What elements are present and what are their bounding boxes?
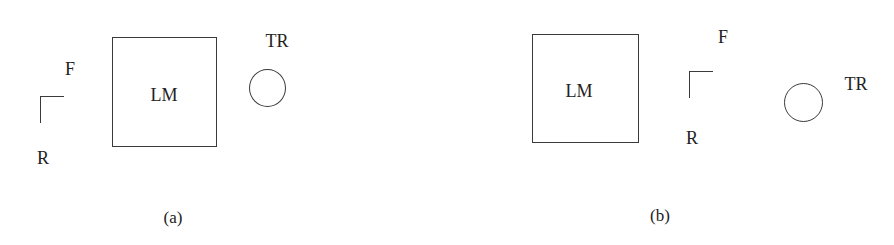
landmark-label: LM: [566, 82, 593, 100]
forward-label: F: [718, 28, 728, 46]
panel-caption: (a): [164, 209, 183, 226]
target-circle: [784, 83, 823, 122]
forward-label: F: [65, 60, 75, 78]
target-circle: [249, 69, 286, 107]
landmark-label: LM: [151, 86, 178, 104]
target-label: TR: [844, 75, 867, 93]
frame-forward-axis: [40, 96, 64, 97]
frame-right-axis: [40, 96, 41, 123]
frame-right-axis: [689, 71, 690, 98]
right-label: R: [686, 129, 698, 147]
frame-forward-axis: [689, 71, 713, 72]
right-label: R: [37, 149, 49, 167]
target-label: TR: [265, 32, 288, 50]
panel-caption: (b): [650, 207, 670, 224]
